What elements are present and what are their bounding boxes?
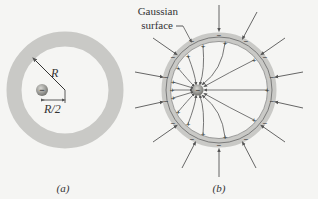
gaussian-label-line1: Gaussian — [138, 5, 179, 17]
label-pointer — [183, 26, 191, 41]
radius-label: R — [50, 66, 59, 80]
svg-text:−: − — [164, 97, 169, 106]
svg-text:+: + — [265, 86, 270, 95]
gaussian-label-line2: surface — [141, 19, 173, 31]
svg-text:−: − — [164, 73, 169, 82]
svg-text:−: − — [217, 141, 222, 150]
svg-text:+: + — [171, 94, 176, 103]
svg-text:+: + — [186, 52, 191, 61]
svg-text:−: − — [171, 53, 176, 62]
svg-text:+: + — [176, 108, 181, 117]
caption-a: (a) — [57, 182, 70, 195]
charge-sign: − — [39, 85, 44, 95]
svg-text:+: + — [170, 86, 175, 95]
svg-text:−: − — [190, 37, 195, 46]
diagram-canvas: R − R/2 (a) — [0, 0, 318, 199]
svg-text:−: − — [270, 97, 275, 106]
offset-label: R/2 — [43, 102, 61, 116]
svg-text:−: − — [171, 119, 176, 128]
svg-text:−: − — [263, 119, 268, 128]
svg-text:+: + — [252, 56, 257, 65]
svg-text:+: + — [223, 133, 228, 142]
caption-b: (b) — [213, 182, 226, 195]
svg-text:−: − — [190, 135, 195, 144]
svg-text:−: − — [244, 135, 249, 144]
svg-text:+: + — [176, 64, 181, 73]
svg-text:−: − — [217, 31, 222, 40]
svg-text:+: + — [186, 120, 191, 129]
panel-a: R − R/2 (a) — [14, 39, 116, 195]
panel-b: +++ ++++ ++++ +++ −−−− −−−− −−−− −− − Ga… — [135, 5, 303, 195]
charge-sign: − — [196, 86, 201, 95]
svg-text:−: − — [263, 53, 268, 62]
svg-text:+: + — [223, 39, 228, 48]
svg-text:−: − — [270, 73, 275, 82]
svg-text:+: + — [252, 116, 257, 125]
svg-text:+: + — [201, 42, 206, 51]
svg-text:+: + — [201, 130, 206, 139]
svg-text:−: − — [244, 37, 249, 46]
